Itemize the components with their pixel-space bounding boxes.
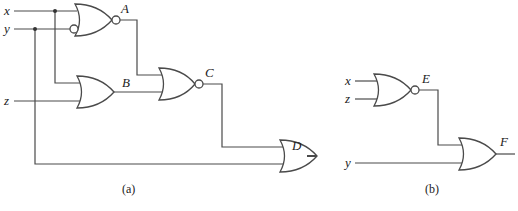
gate-a-nor — [70, 4, 120, 36]
gate-label-b: B — [122, 75, 130, 90]
input-label-y-b: y — [343, 155, 351, 170]
output-bubble-c — [195, 80, 203, 88]
wire-x-to-b — [55, 11, 80, 83]
input-bubble-y — [70, 25, 78, 33]
gate-c-nor — [159, 68, 203, 100]
gate-label-a: A — [120, 1, 129, 16]
input-label-x-b: x — [344, 73, 351, 88]
logic-diagram: x y z A B — [0, 0, 518, 211]
input-label-z-b: z — [344, 91, 350, 106]
caption-a: (a) — [122, 182, 135, 196]
wire-c-to-d — [203, 84, 283, 147]
gate-f-or — [459, 138, 496, 170]
input-label-x-a: x — [3, 3, 10, 18]
circuit-b: x z y E F (b) — [343, 71, 515, 196]
gate-label-e: E — [421, 71, 430, 86]
wire-y-to-d — [35, 29, 283, 164]
input-label-z-a: z — [3, 93, 9, 108]
gate-e-nor — [374, 74, 419, 106]
output-bubble-e — [411, 86, 419, 94]
wire-e-to-f — [419, 90, 462, 145]
junction-dot-y — [33, 27, 37, 31]
gate-label-d: D — [291, 138, 302, 153]
output-bubble-a — [112, 16, 120, 24]
caption-b: (b) — [425, 182, 439, 196]
circuit-a: x y z A B — [2, 1, 317, 196]
gate-label-f: F — [499, 134, 509, 149]
input-label-y-a: y — [2, 21, 10, 36]
gate-b-or — [77, 76, 114, 108]
gate-label-c: C — [205, 65, 214, 80]
junction-dot-x — [53, 9, 57, 13]
wire-a-to-c — [120, 20, 162, 75]
